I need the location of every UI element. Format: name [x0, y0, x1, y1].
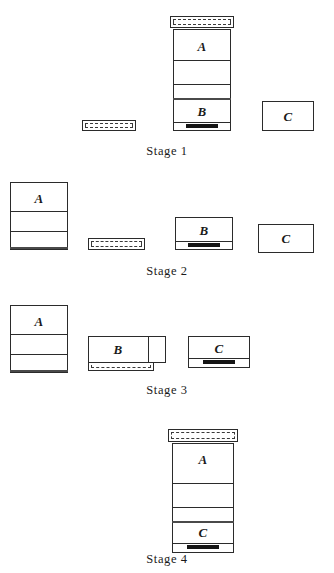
stage-3-caption: Stage 3	[0, 383, 334, 398]
stage1-label-a: A	[173, 40, 231, 53]
stage3-divider-3	[10, 370, 68, 372]
cover-dash-outline	[173, 19, 231, 25]
stage3-label-a: A	[10, 315, 68, 328]
stage2-entrance-block	[188, 243, 220, 247]
stage2-divider-1	[10, 211, 68, 212]
hive-stages-figure: A B C Stage 1 A B C Stage 2	[0, 0, 334, 573]
stage2-label-b: B	[175, 224, 233, 237]
stage3-divider-1	[10, 334, 68, 335]
stage-4-caption: Stage 4	[0, 552, 334, 567]
stage-2-caption: Stage 2	[0, 264, 334, 279]
stage2-divider-3	[10, 247, 68, 249]
cover-dash-outline	[85, 123, 133, 128]
stage3-label-b: B	[88, 343, 148, 356]
stage1-divider-1	[173, 60, 231, 61]
stage1-entrance-block	[186, 124, 218, 128]
stage1-label-b: B	[173, 105, 231, 118]
stage2-label-c: C	[258, 232, 314, 245]
stage3-divider-2	[10, 354, 68, 355]
stage4-top-cover	[168, 429, 238, 442]
stage1-top-cover	[170, 16, 234, 28]
stage1-label-c: C	[262, 110, 314, 123]
stage4-divider-1	[172, 483, 234, 484]
stage1-divider-3	[173, 98, 231, 100]
stage4-divider-3	[172, 521, 234, 523]
stage-2-group: A B C Stage 2	[0, 178, 334, 286]
stage4-label-a: A	[172, 453, 234, 466]
stage2-label-a: A	[10, 192, 68, 205]
stage2-loose-cover	[88, 238, 145, 250]
stage4-entrance-block	[187, 545, 219, 549]
stage4-divider-2	[172, 507, 234, 508]
stage-1-group: A B C Stage 1	[0, 0, 334, 165]
stage2-divider-2	[10, 231, 68, 232]
stage3-entrance-block	[203, 360, 235, 364]
cover-dash-outline	[91, 241, 142, 247]
stage4-label-c: C	[172, 526, 234, 539]
stage-3-group: A B C Stage 3	[0, 300, 334, 405]
cover-dash-outline	[171, 432, 235, 439]
stage-4-group: A C B Stage 4	[0, 425, 334, 573]
stage-1-caption: Stage 1	[0, 144, 334, 159]
stage1-loose-cover	[82, 120, 136, 131]
stage3-box-b-side-line	[148, 336, 149, 363]
stage3-label-c: C	[188, 342, 250, 355]
stage1-divider-2	[173, 84, 231, 85]
